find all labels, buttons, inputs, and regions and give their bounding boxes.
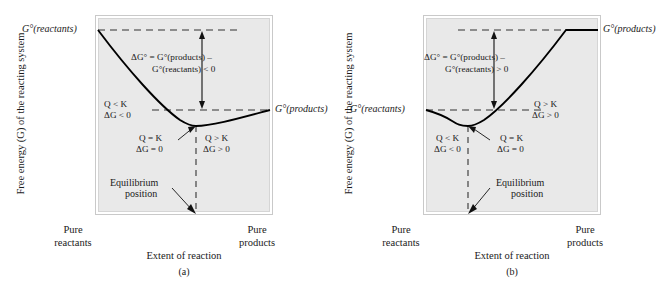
x-left-line2: reactants — [28, 237, 118, 250]
q-greater-k-label-b: Q > K — [534, 99, 557, 110]
equilibrium-label-line2-a: position — [125, 188, 157, 200]
dg-less-zero-label-a: ΔG < 0 — [104, 110, 131, 121]
equilibrium-label-line2-b: position — [511, 188, 543, 200]
panel-b: G°(reactants) G°(products) ΔG° = G°(prod… — [328, 0, 656, 281]
free-energy-curve-b — [426, 30, 598, 126]
delta-g-line2-a: G°(reactants) < 0 — [152, 64, 215, 75]
x-axis-label-b: Extent of reaction — [392, 250, 632, 261]
x-left-line1: Pure — [28, 224, 118, 237]
delta-arrow-head-down-a — [199, 101, 205, 109]
delta-arrow-head-up-a — [199, 31, 205, 39]
dg-equals-zero-label-a: ΔG = 0 — [136, 144, 163, 155]
reactants-energy-label-b: G°(reactants) — [350, 103, 405, 115]
q-greater-k-label-a: Q > K — [205, 133, 228, 144]
delta-g-line1-a: ΔG° = G°(products) – — [131, 52, 212, 63]
free-energy-figure: G°(reactants) G°(products) ΔG° = G°(prod… — [0, 0, 656, 281]
x-axis-label-a: Extent of reaction — [64, 250, 304, 261]
dg-equals-zero-label-b: ΔG = 0 — [497, 144, 524, 155]
y-axis-label-b: Free energy (G) of the reacting system — [343, 14, 354, 214]
q-less-k-label-a: Q < K — [104, 99, 127, 110]
dg-greater-zero-label-a: ΔG > 0 — [203, 144, 230, 155]
x-axis-right-end-b: Pure products — [540, 224, 630, 249]
x-axis-left-end-b: Pure reactants — [356, 224, 446, 249]
delta-g-line2-b: G°(reactants) > 0 — [445, 64, 508, 75]
delta-g-line1-b: ΔG° = G°(products) – — [424, 52, 505, 63]
x-right-line2: products — [540, 237, 630, 250]
q-less-k-label-b: Q < K — [436, 133, 459, 144]
panel-tag-a: (a) — [64, 266, 304, 277]
y-axis-label-a: Free energy (G) of the reacting system — [15, 14, 26, 214]
products-energy-label-a: G°(products) — [275, 103, 328, 115]
dg-greater-zero-label-b: ΔG > 0 — [532, 110, 559, 121]
q-equals-k-label-b: Q = K — [500, 133, 523, 144]
x-left-line1: Pure — [356, 224, 446, 237]
x-axis-left-end-a: Pure reactants — [28, 224, 118, 249]
q-equals-k-arrowhead-b — [468, 126, 476, 133]
panel-tag-b: (b) — [392, 266, 632, 277]
delta-arrow-head-down-b — [491, 101, 497, 109]
x-left-line2: reactants — [356, 237, 446, 250]
dg-less-zero-label-b: ΔG < 0 — [434, 144, 461, 155]
x-axis-right-end-a: Pure products — [212, 224, 302, 249]
x-right-line1: Pure — [540, 224, 630, 237]
panel-a: G°(reactants) G°(products) ΔG° = G°(prod… — [0, 0, 328, 281]
x-right-line1: Pure — [212, 224, 302, 237]
delta-arrow-head-up-b — [491, 31, 497, 39]
q-equals-k-label-a: Q = K — [139, 133, 162, 144]
q-equals-k-arrowhead-a — [188, 126, 196, 133]
reactants-energy-label-a: G°(reactants) — [22, 23, 77, 35]
x-right-line2: products — [212, 237, 302, 250]
products-energy-label-b: G°(products) — [603, 23, 656, 35]
